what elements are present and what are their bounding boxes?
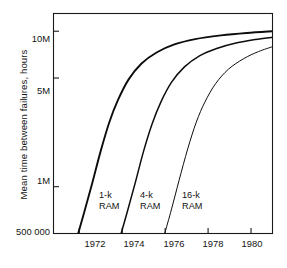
curve-label-line2: RAM bbox=[140, 201, 160, 212]
axis-frame bbox=[54, 14, 273, 234]
plot-area bbox=[0, 0, 287, 268]
curve-label-16k: 16-k RAM bbox=[182, 190, 202, 211]
chart-figure: Mean time between failures, hours 10M 5M… bbox=[0, 0, 287, 268]
curve-16-k-ram bbox=[165, 47, 273, 234]
curve-label-line2: RAM bbox=[99, 201, 119, 212]
curve-label-line1: 16-k bbox=[182, 190, 202, 201]
curve-label-4k: 4-k RAM bbox=[140, 190, 160, 211]
curve-label-1k: 1-k RAM bbox=[99, 190, 119, 211]
curve-label-line1: 1-k bbox=[99, 190, 119, 201]
curve-label-line1: 4-k bbox=[140, 190, 160, 201]
curve-label-line2: RAM bbox=[182, 201, 202, 212]
